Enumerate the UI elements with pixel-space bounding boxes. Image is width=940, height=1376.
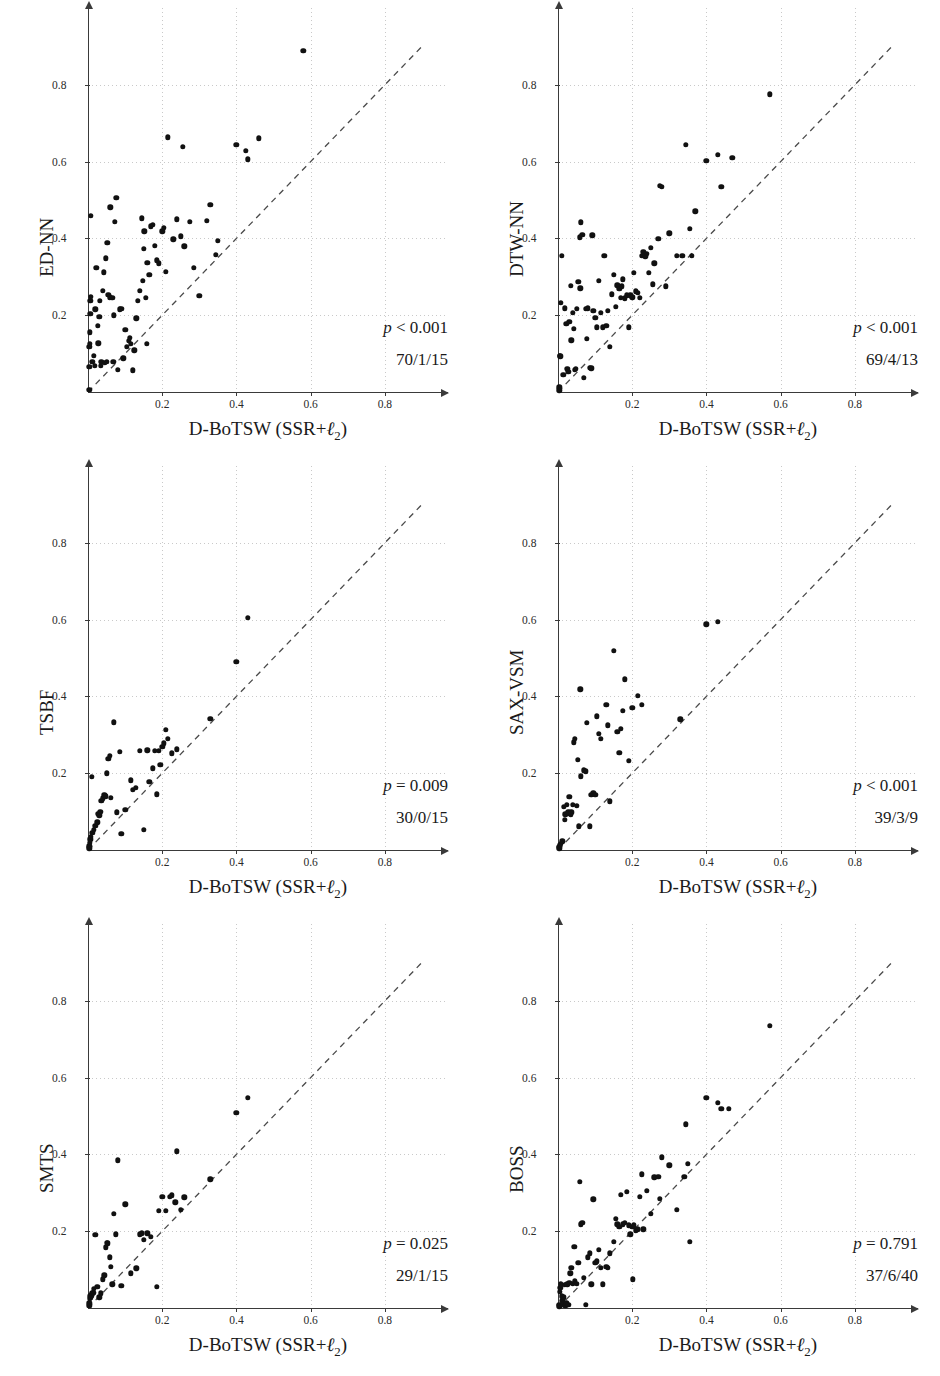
win-tie-loss-annotation: 69/4/13 xyxy=(866,350,918,370)
y-axis-tick-label: 0.2 xyxy=(522,1225,536,1237)
y-axis-tick xyxy=(555,696,560,697)
x-axis-tick xyxy=(706,1308,707,1312)
scatter-panel-dtw-nn: 0.20.40.60.80.20.40.60.8DTW-NND-BoTSW (S… xyxy=(470,0,940,458)
x-axis-tick-label: 0.4 xyxy=(229,398,243,410)
win-tie-loss-annotation: 29/1/15 xyxy=(396,1266,448,1286)
y-axis-tick xyxy=(85,1001,90,1002)
x-axis-tick xyxy=(632,850,633,854)
y-axis xyxy=(88,924,89,1309)
y-axis-tick xyxy=(555,1001,560,1002)
x-axis xyxy=(558,850,918,851)
x-axis-tick xyxy=(385,1308,386,1312)
x-axis-tick-label: 0.6 xyxy=(303,856,317,868)
y-axis-tick-label: 0.2 xyxy=(52,309,66,321)
x-axis-tick xyxy=(311,392,312,396)
p-value-text: < 0.001 xyxy=(862,776,918,795)
x-axis-tick xyxy=(781,392,782,396)
y-axis-tick-label: 0.8 xyxy=(522,995,536,1007)
x-axis-label: D-BoTSW (SSR+ℓ2) xyxy=(558,418,918,444)
y-axis-label: SMTS xyxy=(36,1143,58,1193)
x-axis-tick-label: 0.2 xyxy=(155,856,169,868)
y-axis-tick-label: 0.8 xyxy=(522,537,536,549)
y-axis-tick xyxy=(555,773,560,774)
y-axis-tick-label: 0.6 xyxy=(52,614,66,626)
y-axis-label: SAX-VSM xyxy=(506,649,528,735)
p-value-annotation: p = 0.791 xyxy=(853,1234,918,1254)
y-axis-label: ED-NN xyxy=(36,218,58,277)
ell-subscript: 2 xyxy=(334,428,340,443)
y-axis-tick xyxy=(555,1231,560,1232)
p-value-annotation: p < 0.001 xyxy=(383,318,448,338)
x-axis-tick-label: 0.6 xyxy=(303,1314,317,1326)
y-axis-tick-label: 0.2 xyxy=(52,1225,66,1237)
x-axis-tick xyxy=(162,392,163,396)
y-axis-tick-label: 0.8 xyxy=(52,79,66,91)
x-axis-tick-label: 0.4 xyxy=(229,856,243,868)
x-axis-tick-label: 0.8 xyxy=(378,398,392,410)
x-axis xyxy=(88,392,448,393)
x-axis xyxy=(558,1308,918,1309)
y-axis-tick xyxy=(85,696,90,697)
p-value-text: < 0.001 xyxy=(862,318,918,337)
x-axis-tick-label: 0.4 xyxy=(699,1314,713,1326)
scatter-panel-ed-nn: 0.20.40.60.80.20.40.60.8ED-NND-BoTSW (SS… xyxy=(0,0,470,458)
x-axis-tick-label: 0.2 xyxy=(625,856,639,868)
scatter-panel-smts: 0.20.40.60.80.20.40.60.8SMTSD-BoTSW (SSR… xyxy=(0,916,470,1374)
x-axis-tick-label: 0.6 xyxy=(773,1314,787,1326)
scatter-panel-boss: 0.20.40.60.80.20.40.60.8BOSSD-BoTSW (SSR… xyxy=(470,916,940,1374)
x-axis-tick xyxy=(855,850,856,854)
x-axis-tick-label: 0.2 xyxy=(155,1314,169,1326)
y-axis-tick xyxy=(85,1154,90,1155)
p-value-annotation: p < 0.001 xyxy=(853,318,918,338)
scatter-plot-figure: 0.20.40.60.80.20.40.60.8ED-NND-BoTSW (SS… xyxy=(0,0,940,1376)
x-axis-tick xyxy=(162,1308,163,1312)
y-axis-tick-label: 0.8 xyxy=(522,79,536,91)
ell-subscript: 2 xyxy=(334,886,340,901)
y-axis-tick-label: 0.6 xyxy=(522,156,536,168)
y-axis-tick-label: 0.6 xyxy=(52,1072,66,1084)
x-axis-tick-label: 0.6 xyxy=(773,398,787,410)
x-axis-tick xyxy=(311,1308,312,1312)
p-value-text: < 0.001 xyxy=(392,318,448,337)
x-axis-tick-label: 0.6 xyxy=(303,398,317,410)
x-axis-label: D-BoTSW (SSR+ℓ2) xyxy=(88,1334,448,1360)
y-axis-label: BOSS xyxy=(506,1145,528,1193)
p-symbol: p xyxy=(853,1234,862,1253)
p-value-annotation: p < 0.001 xyxy=(853,776,918,796)
y-axis-tick-label: 0.2 xyxy=(522,309,536,321)
x-axis-tick-label: 0.8 xyxy=(848,1314,862,1326)
p-symbol: p xyxy=(383,318,392,337)
y-axis xyxy=(88,466,89,851)
x-axis xyxy=(558,392,918,393)
x-axis-tick-label: 0.8 xyxy=(848,856,862,868)
x-axis-tick xyxy=(236,392,237,396)
ell-subscript: 2 xyxy=(804,428,810,443)
p-value-text: = 0.791 xyxy=(862,1234,918,1253)
y-axis-tick xyxy=(555,315,560,316)
y-axis-tick xyxy=(85,543,90,544)
y-axis-tick xyxy=(555,543,560,544)
win-tie-loss-annotation: 37/6/40 xyxy=(866,1266,918,1286)
y-axis xyxy=(88,8,89,393)
y-axis-tick xyxy=(85,620,90,621)
x-axis-tick-label: 0.2 xyxy=(625,398,639,410)
x-axis-tick xyxy=(706,392,707,396)
p-value-annotation: p = 0.009 xyxy=(383,776,448,796)
y-axis-tick xyxy=(555,1154,560,1155)
x-axis-tick xyxy=(385,850,386,854)
y-axis-tick-label: 0.2 xyxy=(522,767,536,779)
y-axis xyxy=(558,924,559,1309)
x-axis-tick xyxy=(385,392,386,396)
win-tie-loss-annotation: 70/1/15 xyxy=(396,350,448,370)
y-axis-tick-label: 0.8 xyxy=(52,995,66,1007)
ell-subscript: 2 xyxy=(804,1344,810,1359)
y-axis-tick xyxy=(555,162,560,163)
x-axis xyxy=(88,850,448,851)
win-tie-loss-annotation: 30/0/15 xyxy=(396,808,448,828)
x-axis-tick xyxy=(632,1308,633,1312)
y-axis-tick xyxy=(555,85,560,86)
y-axis-tick xyxy=(85,1078,90,1079)
x-axis-tick-label: 0.8 xyxy=(848,398,862,410)
p-symbol: p xyxy=(383,1234,392,1253)
ell-subscript: 2 xyxy=(334,1344,340,1359)
